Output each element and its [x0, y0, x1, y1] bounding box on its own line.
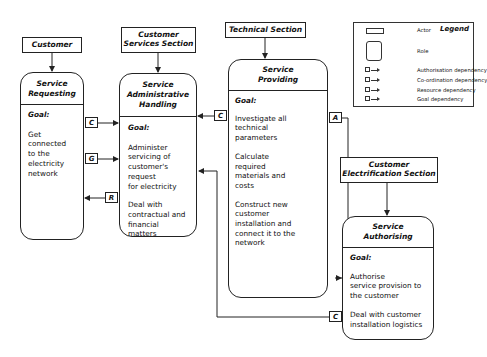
goal-item: Deal with contractual and financial matt…	[128, 200, 190, 239]
dependency-coordination-authorising-admin[interactable]: C	[329, 311, 342, 322]
actor-label: Customer	[32, 41, 73, 50]
role-title: Service Authorising	[343, 217, 433, 248]
arrow-head-icon	[377, 68, 380, 72]
authorisation-dependency-icon	[365, 67, 370, 72]
actor-label: Customer Electrification Section	[342, 161, 435, 178]
legend: Legend Actor Role Authorisation dependen…	[353, 22, 474, 107]
role-service-requesting[interactable]: Service Requesting Goal: Get connected t…	[20, 72, 84, 240]
dependency-label: A	[333, 114, 338, 122]
goal-label: Goal:	[235, 96, 321, 106]
coordination-dependency-icon	[365, 77, 370, 82]
goal-label: Goal:	[350, 253, 427, 263]
legend-label: Role	[417, 48, 428, 54]
goal-dependency-icon	[365, 96, 370, 101]
goal-item: Calculate required materials and costs	[235, 152, 321, 191]
role-title: Service Administrative Handling	[120, 74, 196, 117]
dependency-resource-admin-requesting[interactable]: R	[105, 192, 118, 203]
actor-symbol-icon	[366, 28, 384, 34]
legend-label: Co-ordination dependency	[417, 77, 487, 83]
goal-item: Get connected to the electricity network	[28, 130, 77, 179]
dependency-authorisation-providing-authorising[interactable]: A	[329, 112, 342, 123]
dependency-label: C	[218, 112, 223, 120]
dependency-coordination-providing-admin[interactable]: C	[214, 110, 227, 121]
goal-item: Deal with customer installation logistic…	[350, 310, 427, 329]
actor-customer[interactable]: Customer	[22, 37, 82, 53]
legend-label: Actor	[417, 27, 431, 33]
actor-customer-services-section[interactable]: Customer Services Section	[121, 27, 196, 53]
role-title: Service Requesting	[21, 73, 83, 105]
arrow-head-icon	[377, 97, 380, 101]
role-title: Service Providing	[229, 60, 327, 91]
goal-item: Construct new customer installation and …	[235, 200, 321, 249]
actor-customer-electrification-section[interactable]: Customer Electrification Section	[340, 157, 438, 183]
dependency-label: R	[109, 194, 114, 202]
goal-item: Administer servicing of customer's reque…	[128, 143, 190, 192]
legend-label: Authorisation dependency	[417, 67, 487, 73]
goal-label: Goal:	[28, 110, 77, 120]
actor-technical-section[interactable]: Technical Section	[225, 22, 306, 38]
role-service-providing[interactable]: Service Providing Goal: Investigate all …	[228, 59, 328, 298]
goal-item: Investigate all technical parameters	[235, 114, 321, 143]
role-service-authorising[interactable]: Service Authorising Goal: Authorise serv…	[342, 216, 434, 340]
dependency-coordination-requesting-admin[interactable]: C	[85, 117, 98, 128]
goal-label: Goal:	[128, 123, 190, 133]
arrow-head-icon	[377, 88, 380, 92]
role-service-administrative-handling[interactable]: Service Administrative Handling Goal: Ad…	[119, 73, 197, 237]
resource-dependency-icon	[365, 87, 370, 92]
dependency-label: G	[89, 155, 95, 163]
goal-item: Authorise service provision to the custo…	[350, 272, 427, 301]
legend-label: Goal dependency	[417, 96, 463, 102]
actor-label: Technical Section	[229, 26, 302, 35]
actor-label: Customer Services Section	[124, 31, 194, 48]
arrow-head-icon	[377, 78, 380, 82]
dependency-label: C	[89, 119, 94, 127]
dependency-goal-requesting-admin[interactable]: G	[85, 153, 98, 164]
legend-label: Resource dependency	[417, 87, 476, 93]
legend-title: Legend	[440, 25, 469, 33]
role-symbol-icon	[366, 41, 382, 61]
dependency-label: C	[333, 313, 338, 321]
